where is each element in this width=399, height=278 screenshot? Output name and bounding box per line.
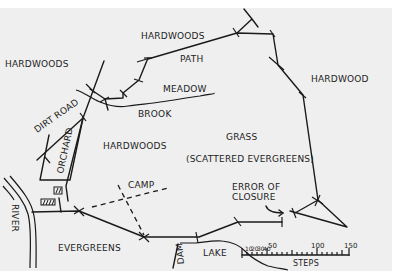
label-hardwood-e: HARDWOOD — [311, 74, 369, 84]
scale-title: STEPS — [293, 259, 319, 268]
label-orchard: ORCHARD — [55, 127, 74, 175]
label-evergreens: EVERGREENS — [58, 243, 121, 253]
traverse-route — [32, 211, 282, 237]
label-hardwoods-nw: HARDWOODS — [5, 59, 69, 69]
label-brook: BROOK — [138, 109, 172, 119]
label-hardwoods-center: HARDWOODS — [103, 141, 167, 151]
scale-tick-50: 50 — [268, 242, 277, 250]
label-meadow: MEADOW — [163, 84, 207, 94]
camp-sight-line — [92, 188, 168, 207]
label-dam: DAM — [174, 243, 186, 265]
traverse-map: HARDWOODS HARDWOODS PATH MEADOW BROOK HA… — [0, 0, 399, 278]
label-river: RIVER — [10, 204, 20, 232]
scale-tick-150: 150 — [344, 242, 357, 250]
label-grass: GRASS — [226, 132, 258, 142]
label-camp: CAMP — [128, 180, 155, 190]
label-lake: LAKE — [203, 248, 227, 258]
scale-tick-100: 100 — [311, 242, 324, 250]
label-error-of: ERROR OF — [232, 182, 280, 192]
label-hardwoods-n: HARDWOODS — [141, 31, 205, 41]
camp-buildings — [41, 187, 62, 212]
label-path: PATH — [180, 54, 203, 64]
label-scattered-evergreens: (SCATTERED EVERGREENS) — [186, 154, 314, 164]
label-closure: CLOSURE — [232, 192, 276, 202]
